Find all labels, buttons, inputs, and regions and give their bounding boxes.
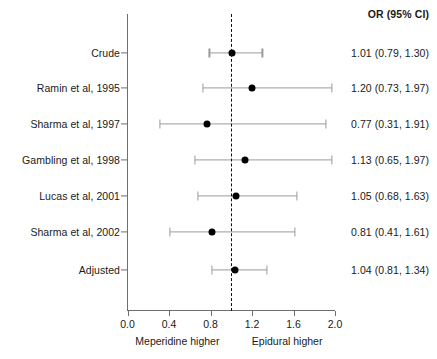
ci-lower-cap xyxy=(211,266,212,275)
x-axis-tick-label: 1.6 xyxy=(286,318,301,330)
ci-lower-cap xyxy=(194,156,195,165)
x-axis-tick-label: 0.8 xyxy=(203,318,218,330)
ci-upper-cap xyxy=(294,228,295,237)
point-estimate-marker xyxy=(204,121,211,128)
ci-upper-cap xyxy=(325,120,326,129)
y-axis-tick xyxy=(121,123,127,124)
ci-upper-cap xyxy=(266,266,267,275)
point-estimate-marker xyxy=(233,193,240,200)
forest-plot-figure: OR (95% CI) Crude1.01 (0.79, 1.30)Ramin … xyxy=(0,0,437,359)
or-value-text: 0.77 (0.31, 1.91) xyxy=(351,118,429,130)
ci-upper-cap xyxy=(331,84,332,93)
y-axis-tick xyxy=(121,231,127,232)
x-axis-tick xyxy=(169,311,170,316)
ci-upper-cap xyxy=(331,156,332,165)
or-value-text: 1.20 (0.73, 1.97) xyxy=(351,82,429,94)
or-value-text: 1.13 (0.65, 1.97) xyxy=(351,154,429,166)
ci-lower-cap xyxy=(169,228,170,237)
x-axis-tick-label: 2.0 xyxy=(328,318,343,330)
reference-line-at-1 xyxy=(231,14,232,311)
x-axis-tick-label: 0.0 xyxy=(120,318,135,330)
y-axis-tick xyxy=(121,159,127,160)
y-axis-tick xyxy=(121,52,127,53)
confidence-interval-line xyxy=(160,123,326,124)
x-axis-tick xyxy=(211,311,212,316)
point-estimate-marker xyxy=(232,267,239,274)
ci-upper-cap xyxy=(262,49,263,58)
or-value-text: 1.05 (0.68, 1.63) xyxy=(351,190,429,202)
x-axis-tick xyxy=(294,311,295,316)
study-label: Crude xyxy=(91,47,120,59)
x-axis-tick-label: 1.2 xyxy=(245,318,260,330)
y-axis-tick xyxy=(121,195,127,196)
point-estimate-marker xyxy=(229,50,236,57)
ci-lower-cap xyxy=(209,49,210,58)
confidence-interval-line xyxy=(198,195,297,196)
point-estimate-marker xyxy=(241,157,248,164)
ci-lower-cap xyxy=(197,192,198,201)
y-axis-tick xyxy=(121,87,127,88)
study-label: Ramin et al, 1995 xyxy=(37,82,120,94)
study-label: Lucas et al, 2001 xyxy=(39,190,120,202)
ci-upper-cap xyxy=(296,192,297,201)
study-label: Gambling et al, 1998 xyxy=(22,154,120,166)
study-label: Sharma et al, 1997 xyxy=(30,118,120,130)
x-axis-tick xyxy=(252,311,253,316)
or-column-header: OR (95% CI) xyxy=(368,8,429,20)
confidence-interval-line xyxy=(170,231,295,232)
or-value-text: 1.01 (0.79, 1.30) xyxy=(351,47,429,59)
confidence-interval-line xyxy=(195,159,332,160)
or-value-text: 1.04 (0.81, 1.34) xyxy=(351,264,429,276)
or-value-text: 0.81 (0.41, 1.61) xyxy=(351,226,429,238)
ci-lower-cap xyxy=(203,84,204,93)
y-axis-line xyxy=(127,14,128,311)
point-estimate-marker xyxy=(249,85,256,92)
confidence-interval-line xyxy=(212,269,267,270)
x-axis-tick xyxy=(128,311,129,316)
x-axis-tick xyxy=(335,311,336,316)
axis-caption-left: Meperidine higher xyxy=(135,335,219,347)
ci-lower-cap xyxy=(159,120,160,129)
study-label: Adjusted xyxy=(79,264,120,276)
point-estimate-marker xyxy=(208,229,215,236)
axis-caption-right: Epidural higher xyxy=(252,335,323,347)
confidence-interval-line xyxy=(203,87,332,88)
confidence-interval-line xyxy=(209,52,262,53)
y-axis-tick xyxy=(121,269,127,270)
x-axis-tick-label: 0.4 xyxy=(162,318,177,330)
study-label: Sharma et al, 2002 xyxy=(30,226,120,238)
